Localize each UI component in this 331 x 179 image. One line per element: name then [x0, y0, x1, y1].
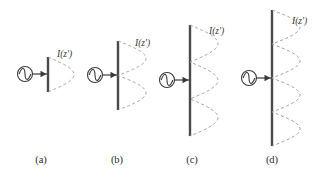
- antenna-current-distribution-figure: I(z') (a) I(z') (b) I(z') (c) I(z') (d): [0, 0, 331, 179]
- feed-arrow-icon-d: [265, 75, 271, 81]
- panel-d-diagram: [0, 0, 331, 179]
- current-distribution-curve-d: [272, 10, 300, 146]
- panel-d-caption: (d): [252, 154, 292, 165]
- ac-source-waveform-icon-d: [243, 73, 255, 84]
- panel-d-current-label: I(z'): [292, 16, 307, 26]
